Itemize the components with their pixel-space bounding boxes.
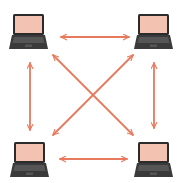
connections [30, 37, 154, 159]
laptop-screen [140, 16, 167, 33]
laptop-nodes [9, 14, 173, 177]
laptop-screen [15, 16, 42, 33]
laptop-icon [9, 14, 48, 49]
laptop-icon [134, 142, 173, 177]
laptop-screen [16, 144, 43, 161]
network-diagram [0, 0, 186, 183]
laptop-screen [140, 144, 167, 161]
laptop-icon [134, 14, 173, 49]
laptop-icon [10, 142, 49, 177]
